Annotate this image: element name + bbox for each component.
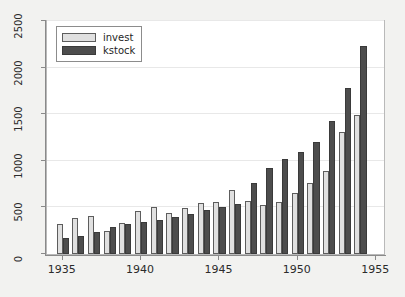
legend-swatch-invest [62,33,96,42]
x-tick-mark-1935 [62,256,63,260]
bar-kstock-1951 [313,142,319,254]
y-tick-mark-2500 [41,20,45,21]
y-tick-label-text: 1500 [13,106,25,131]
y-tick-label-1000: 1000 [0,154,38,166]
bar-kstock-1950 [298,152,304,254]
bar-group-1943 [182,21,194,254]
legend-item-invest: invest [62,31,135,44]
y-tick-label-0: 0 [0,247,38,259]
x-tick-label-1955: 1955 [355,263,395,276]
bar-group-1951 [307,21,319,254]
bar-group-1946 [229,21,241,254]
bar-group-1942 [166,21,178,254]
y-tick-label-text: 2000 [13,60,25,85]
bar-group-1949 [276,21,288,254]
bar-group-1941 [151,21,163,254]
bar-kstock-1949 [282,159,288,254]
x-tick-mark-1955 [375,256,376,260]
x-tick-mark-1950 [297,256,298,260]
y-tick-label-500: 500 [0,200,38,212]
x-axis-spine [45,255,386,256]
y-tick-mark-1500 [41,113,45,114]
y-tick-label-text: 2500 [13,13,25,38]
y-tick-mark-500 [41,206,45,207]
x-tick-label-1935: 1935 [42,263,82,276]
x-tick-mark-1945 [218,256,219,260]
bar-kstock-1940 [141,222,147,254]
bar-kstock-1952 [329,121,335,254]
y-axis-spine [45,20,46,256]
y-tick-mark-1000 [41,160,45,161]
legend-label-kstock: kstock [103,45,135,57]
x-tick-label-1940: 1940 [120,263,160,276]
bar-kstock-1935 [63,238,69,254]
bar-kstock-1946 [235,204,241,254]
bar-group-1954 [354,21,366,254]
bar-group-1953 [339,21,351,254]
y-tick-label-text: 500 [13,203,25,222]
legend-label-invest: invest [103,32,133,44]
x-tick-label-1950: 1950 [277,263,317,276]
bar-kstock-1945 [219,207,225,254]
bar-kstock-1938 [110,227,116,254]
y-tick-label-1500: 1500 [0,107,38,119]
bar-kstock-1939 [125,224,131,254]
bar-kstock-1942 [172,217,178,254]
legend-swatch-kstock [62,46,96,55]
y-tick-label-2000: 2000 [0,61,38,73]
y-tick-label-text: 0 [13,256,25,262]
y-tick-mark-2000 [41,67,45,68]
bar-group-1947 [245,21,257,254]
bar-kstock-1937 [94,232,100,254]
bar-kstock-1944 [204,210,210,254]
legend-item-kstock: kstock [62,44,135,57]
bar-group-1952 [323,21,335,254]
bar-kstock-1941 [157,220,163,254]
bar-kstock-1954 [360,46,366,254]
bar-group-1945 [213,21,225,254]
bar-group-1948 [260,21,272,254]
x-tick-label-1945: 1945 [198,263,238,276]
x-tick-mark-1940 [140,256,141,260]
y-tick-label-2500: 2500 [0,14,38,26]
bar-kstock-1936 [78,236,84,254]
bar-group-1944 [198,21,210,254]
bar-kstock-1953 [345,88,351,254]
chart-figure: 05001000150020002500 1935194019451950195… [0,0,405,297]
bar-kstock-1943 [188,214,194,254]
bar-group-1950 [292,21,304,254]
bar-kstock-1947 [251,183,257,254]
bar-kstock-1948 [266,168,272,254]
chart-legend: invest kstock [56,26,142,62]
y-tick-mark-0 [41,253,45,254]
y-tick-label-text: 1000 [13,153,25,178]
